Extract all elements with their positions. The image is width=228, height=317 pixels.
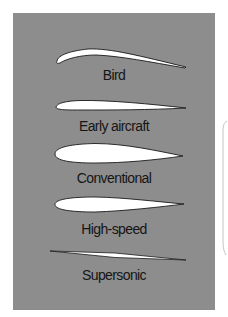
label-conventional: Conventional — [13, 170, 215, 186]
high-speed-airfoil-shape — [55, 197, 184, 212]
bird-airfoil-shape — [57, 49, 186, 68]
early-aircraft-airfoil-shape — [56, 100, 186, 110]
label-early-aircraft: Early aircraft — [13, 118, 215, 134]
bracket-line — [223, 121, 227, 255]
supersonic-airfoil-shape — [50, 251, 186, 260]
conventional-airfoil-shape — [55, 144, 183, 164]
label-high-speed: High-speed — [13, 221, 215, 237]
label-supersonic: Supersonic — [13, 267, 215, 283]
label-bird: Bird — [13, 67, 215, 83]
